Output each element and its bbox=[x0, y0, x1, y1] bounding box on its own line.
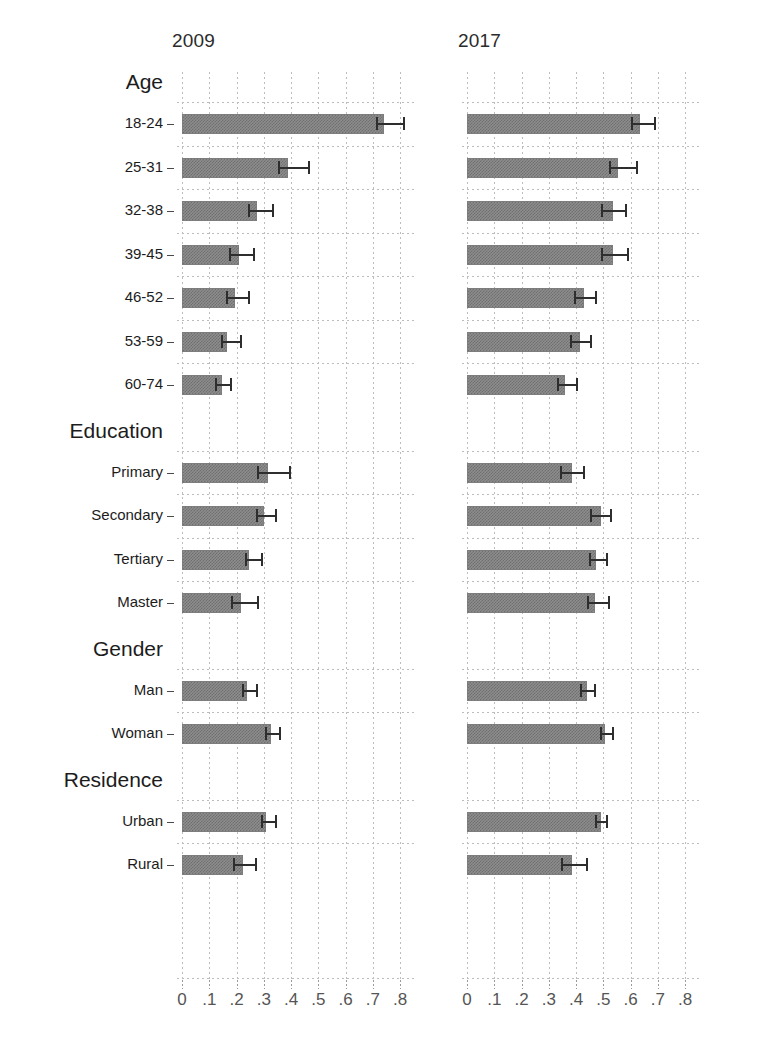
gridline-horizontal bbox=[462, 233, 700, 234]
plot-area-2017 bbox=[462, 72, 700, 980]
gridline-horizontal bbox=[177, 189, 415, 190]
error-bar-cap-low bbox=[595, 815, 597, 828]
x-axis-tick bbox=[603, 980, 604, 989]
category-label: Primary bbox=[111, 464, 163, 479]
error-bar-cap-low bbox=[256, 509, 258, 522]
error-bar-line bbox=[581, 690, 595, 692]
bar bbox=[467, 506, 601, 526]
error-bar-line bbox=[230, 254, 255, 256]
error-bar-cap-low bbox=[601, 248, 603, 261]
bar bbox=[182, 463, 268, 483]
x-axis-tick bbox=[549, 980, 550, 989]
x-axis-tick-label: .4 bbox=[284, 990, 298, 1010]
category-tick bbox=[167, 385, 174, 386]
error-bar-cap-low bbox=[257, 466, 259, 479]
error-bar-cap-high bbox=[610, 509, 612, 522]
x-axis-tick-label: .1 bbox=[487, 990, 501, 1010]
bar bbox=[467, 158, 618, 178]
error-bar-cap-high bbox=[627, 248, 629, 261]
gridline-horizontal bbox=[177, 276, 415, 277]
bar bbox=[182, 201, 257, 221]
bar bbox=[467, 375, 565, 395]
x-axis-tick-label: .5 bbox=[596, 990, 610, 1010]
category-tick bbox=[167, 211, 174, 212]
x-axis-tick bbox=[209, 980, 210, 989]
category-label: Master bbox=[117, 594, 163, 609]
x-axis-tick bbox=[373, 980, 374, 989]
category-tick bbox=[167, 516, 174, 517]
gridline-horizontal bbox=[462, 320, 700, 321]
error-bar-line bbox=[246, 559, 262, 561]
gridline-horizontal bbox=[462, 800, 700, 801]
error-bar-cap-high bbox=[403, 117, 405, 130]
error-bar-cap-low bbox=[376, 117, 378, 130]
category-tick bbox=[167, 822, 174, 823]
error-bar-cap-high bbox=[257, 596, 259, 609]
x-axis-tick bbox=[264, 980, 265, 989]
error-bar-cap-high bbox=[595, 291, 597, 304]
error-bar-line bbox=[227, 297, 249, 299]
error-bar-cap-high bbox=[253, 248, 255, 261]
error-bar-cap-low bbox=[248, 204, 250, 217]
error-bar-cap-high bbox=[583, 466, 585, 479]
x-axis-tick bbox=[346, 980, 347, 989]
gridline-horizontal bbox=[462, 363, 700, 364]
error-bar-cap-low bbox=[233, 858, 235, 871]
category-label: 46-52 bbox=[125, 289, 163, 304]
error-bar-cap-low bbox=[557, 378, 559, 391]
group-header-education: Education bbox=[70, 419, 163, 443]
category-tick bbox=[167, 124, 174, 125]
plot-area-2009 bbox=[177, 72, 415, 980]
bar bbox=[182, 550, 249, 570]
gridline-horizontal bbox=[462, 669, 700, 670]
bar bbox=[467, 332, 580, 352]
category-label: Man bbox=[134, 682, 163, 697]
x-axis-tick bbox=[522, 980, 523, 989]
error-bar-cap-high bbox=[594, 684, 596, 697]
error-bar-cap-high bbox=[230, 378, 232, 391]
error-bar-line bbox=[377, 123, 404, 125]
error-bar-cap-high bbox=[586, 858, 588, 871]
error-bar-cap-low bbox=[609, 161, 611, 174]
x-axis-tick-label: .7 bbox=[366, 990, 380, 1010]
error-bar-cap-low bbox=[587, 596, 589, 609]
category-tick bbox=[167, 691, 174, 692]
error-bar-cap-low bbox=[574, 291, 576, 304]
error-bar-line bbox=[610, 167, 637, 169]
error-bar-cap-low bbox=[265, 727, 267, 740]
x-axis-tick bbox=[318, 980, 319, 989]
gridline-horizontal bbox=[462, 843, 700, 844]
error-bar-cap-low bbox=[231, 596, 233, 609]
category-tick bbox=[167, 560, 174, 561]
gridline-horizontal bbox=[177, 146, 415, 147]
x-axis-tick-label: .3 bbox=[257, 990, 271, 1010]
error-bar-line bbox=[279, 167, 309, 169]
gridline-horizontal bbox=[177, 320, 415, 321]
bar bbox=[182, 681, 247, 701]
error-bar-cap-low bbox=[601, 204, 603, 217]
error-bar-cap-low bbox=[590, 509, 592, 522]
x-axis-2017: 0.1.2.3.4.5.6.7.8 bbox=[462, 980, 700, 1014]
error-bar-line bbox=[602, 254, 628, 256]
category-label: Urban bbox=[122, 813, 163, 828]
gridline-horizontal bbox=[177, 978, 415, 979]
error-bar-cap-high bbox=[279, 727, 281, 740]
category-tick bbox=[167, 865, 174, 866]
error-bar-line bbox=[266, 733, 280, 735]
gridline-horizontal bbox=[462, 978, 700, 979]
error-bar-cap-high bbox=[625, 204, 627, 217]
gridline-horizontal bbox=[177, 451, 415, 452]
gridline-horizontal bbox=[177, 538, 415, 539]
x-axis-2009: 0.1.2.3.4.5.6.7.8 bbox=[177, 980, 415, 1014]
x-axis-tick bbox=[494, 980, 495, 989]
error-bar-line bbox=[575, 297, 597, 299]
error-bar-line bbox=[216, 384, 231, 386]
error-bar-cap-high bbox=[256, 684, 258, 697]
gridline-horizontal bbox=[177, 669, 415, 670]
bar bbox=[467, 463, 572, 483]
category-label: 53-59 bbox=[125, 333, 163, 348]
error-bar-line bbox=[558, 384, 577, 386]
category-tick bbox=[167, 168, 174, 169]
error-bar-cap-low bbox=[600, 727, 602, 740]
gridline-horizontal bbox=[462, 146, 700, 147]
